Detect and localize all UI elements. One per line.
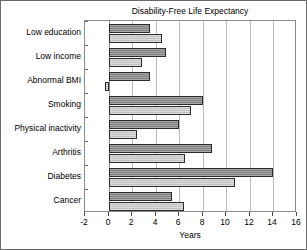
chart-title: Disability-Free Life Expectancy	[84, 6, 296, 16]
bar-cancer-series-1	[109, 192, 173, 201]
y-axis-label-smoking: Smoking	[1, 99, 81, 109]
bar-diabetes-series-1	[109, 168, 274, 177]
bar-low-income-series-1	[109, 48, 167, 57]
x-axis-tick	[249, 212, 250, 216]
y-axis-label-physical-inactivity: Physical inactivity	[1, 123, 81, 133]
bar-arthritis-series-1	[109, 144, 213, 153]
x-axis-tick	[84, 212, 85, 216]
y-axis-label-arthritis: Arthritis	[1, 147, 81, 157]
y-axis-tick	[85, 141, 88, 142]
y-axis-label-low-education: Low education	[1, 27, 81, 37]
x-axis-tick	[225, 212, 226, 216]
gridline	[273, 21, 274, 211]
bar-diabetes-series-2	[109, 178, 235, 187]
x-axis-tick-label: 10	[212, 217, 238, 227]
y-axis-tick	[85, 117, 88, 118]
x-axis-tick-label: 6	[165, 217, 191, 227]
y-axis-tick	[85, 21, 88, 22]
y-axis-tick	[85, 165, 88, 166]
bar-abnormal-bmi-series-1	[109, 72, 150, 81]
bar-physical-inactivity-series-1	[109, 120, 180, 129]
x-axis-tick	[108, 212, 109, 216]
bar-cancer-series-2	[109, 202, 184, 211]
x-axis-tick	[202, 212, 203, 216]
bar-low-education-series-2	[109, 34, 162, 43]
x-axis-tick	[155, 212, 156, 216]
bar-low-education-series-1	[109, 24, 150, 33]
x-axis: Years -20246810121416	[84, 212, 296, 250]
y-axis-tick	[85, 45, 88, 46]
y-axis-tick	[85, 93, 88, 94]
bar-abnormal-bmi-series-2	[105, 82, 109, 91]
x-axis-tick-label: 2	[118, 217, 144, 227]
y-axis-tick	[85, 69, 88, 70]
x-axis-tick-label: 16	[283, 217, 307, 227]
x-axis-tick	[131, 212, 132, 216]
y-axis-tick	[85, 189, 88, 190]
bar-low-income-series-2	[109, 58, 142, 67]
x-axis-tick-label: 14	[259, 217, 285, 227]
bar-physical-inactivity-series-2	[109, 130, 137, 139]
y-axis-category-labels: Low educationLow incomeAbnormal BMISmoki…	[1, 20, 81, 212]
bar-smoking-series-1	[109, 96, 203, 105]
x-axis-tick	[178, 212, 179, 216]
y-axis-label-diabetes: Diabetes	[1, 171, 81, 181]
bar-arthritis-series-2	[109, 154, 186, 163]
y-axis-label-abnormal-bmi: Abnormal BMI	[1, 75, 81, 85]
gridline	[250, 21, 251, 211]
bar-smoking-series-2	[109, 106, 191, 115]
y-axis-label-cancer: Cancer	[1, 195, 81, 205]
x-axis-tick	[272, 212, 273, 216]
x-axis-tick-label: -2	[71, 217, 97, 227]
chart-figure: Disability-Free Life Expectancy Low educ…	[0, 0, 307, 250]
plot-area	[84, 20, 296, 212]
x-axis-tick	[296, 212, 297, 216]
y-axis-label-low-income: Low income	[1, 51, 81, 61]
x-axis-title: Years	[84, 230, 296, 240]
